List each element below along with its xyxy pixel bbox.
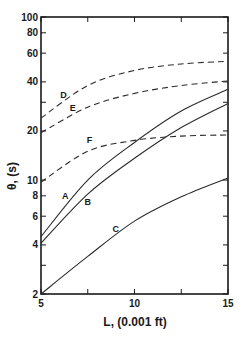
- ticks: 5101524681020406080100: [21, 12, 234, 310]
- series-lines: [41, 61, 228, 294]
- line-chart: 5101524681020406080100 ABCDEF L, (0.001 …: [0, 0, 248, 339]
- curve-b: [41, 103, 228, 243]
- y-tick-label: 100: [21, 12, 38, 23]
- y-tick-label: 60: [27, 48, 39, 59]
- y-tick-label: 20: [27, 125, 39, 136]
- curve-label-e: E: [70, 103, 76, 113]
- y-tick-label: 80: [27, 27, 39, 38]
- curve-label-c: C: [113, 224, 120, 234]
- curve-label-a: A: [62, 191, 69, 201]
- y-axis-label: θ, (s): [5, 162, 19, 190]
- y-tick-label: 4: [32, 239, 38, 250]
- axes: [41, 17, 228, 294]
- chart-container: 5101524681020406080100 ABCDEF L, (0.001 …: [0, 0, 248, 339]
- x-tick-label: 15: [222, 298, 234, 309]
- curve-label-b: B: [85, 197, 92, 207]
- curve-label-f: F: [87, 135, 93, 145]
- x-tick-label: 5: [38, 298, 44, 309]
- y-tick-label: 8: [32, 190, 38, 201]
- plot-frame: [41, 17, 228, 294]
- curve-c: [41, 178, 228, 294]
- y-tick-label: 6: [32, 211, 38, 222]
- curve-label-d: D: [60, 90, 67, 100]
- y-tick-label: 2: [32, 289, 38, 300]
- x-tick-label: 10: [129, 298, 141, 309]
- y-tick-label: 10: [27, 175, 39, 186]
- x-axis-label: L, (0.001 ft): [103, 315, 166, 329]
- y-tick-label: 40: [27, 76, 39, 87]
